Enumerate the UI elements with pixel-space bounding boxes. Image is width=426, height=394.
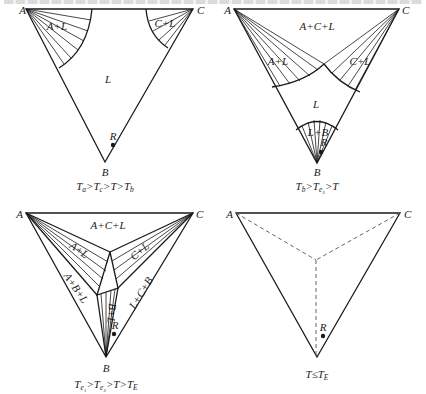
phase-diagram-figure: A C B A+L C+L L R Ta>Tc>T>Tb <box>0 0 426 394</box>
point-r-label: R <box>320 136 328 148</box>
vertex-a-label: A <box>223 4 231 16</box>
point-r-label: R <box>109 130 117 142</box>
region-label-l: L <box>104 73 111 85</box>
region-label-a-plus-l: A+L <box>46 20 67 32</box>
region-label-a-plus-c-plus-l: A+C+L <box>298 20 334 32</box>
region-label-a-plus-b-plus-l: A+B+L <box>61 269 91 305</box>
vertex-b-label: B <box>102 166 109 178</box>
point-r-label: R <box>111 319 119 331</box>
region-label-a-plus-c-plus-l: A+C+L <box>89 219 125 231</box>
tie-lines-c <box>332 9 399 90</box>
vertex-a-label: A <box>15 208 23 220</box>
region-label-l-plus-c-plus-b: L+C+B <box>126 275 155 312</box>
panel-1-caption: Ta>Tc>T>Tb <box>76 180 134 194</box>
triangle-outline <box>236 213 400 357</box>
vertex-c-label: C <box>404 208 412 220</box>
panel-3-caption: Te₁>Te₃>T>TE <box>74 378 138 392</box>
panel-3: A C B A+C+L A+L C+L A+B+L L+C+B B+L R Te… <box>15 208 204 392</box>
point-r <box>319 150 323 154</box>
point-r-label: R <box>319 321 327 333</box>
region-label-l: L <box>312 98 319 110</box>
point-r <box>111 143 115 147</box>
vertex-a-label: A <box>225 208 233 220</box>
vertex-b-label: B <box>103 362 110 374</box>
region-label-c-plus-l: C+L <box>350 55 371 67</box>
liquid-wedge <box>97 252 118 295</box>
vertex-a-label: A <box>18 4 26 16</box>
panel-1: A C B A+L C+L L R Ta>Tc>T>Tb <box>18 4 205 194</box>
vertex-c-label: C <box>402 4 410 16</box>
vertex-c-label: C <box>197 4 205 16</box>
point-r <box>112 332 116 336</box>
liquidus-curve-a <box>272 64 324 87</box>
panel-4-caption: T≤TE <box>306 368 329 382</box>
tie-lines-a <box>26 9 91 64</box>
point-r <box>321 334 325 338</box>
panel-2: A C B A+C+L A+L C+L L L+B R Tb>Te₃>T <box>223 4 410 194</box>
vertex-b-label: B <box>314 166 321 178</box>
region-label-c-plus-l: C+L <box>155 17 176 29</box>
vertex-c-label: C <box>196 208 204 220</box>
region-label-a-plus-l: A+L <box>267 55 288 67</box>
panel-4: A C R T≤TE <box>225 208 412 382</box>
panel-2-caption: Tb>Te₃>T <box>296 180 340 194</box>
